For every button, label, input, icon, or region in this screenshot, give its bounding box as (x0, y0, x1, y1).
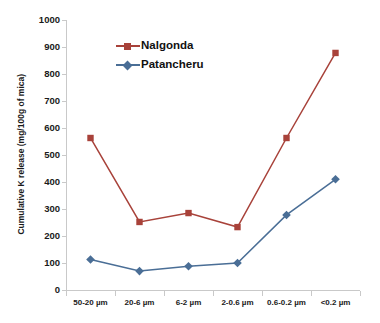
y-axis-tick-label-wrap: 800 (0, 69, 60, 79)
x-axis-tick-label: 50-20 µm (73, 299, 107, 307)
y-axis-tick-label-wrap: 700 (0, 96, 60, 106)
y-axis-tick-label: 400 (20, 177, 60, 187)
x-axis-tick (262, 291, 263, 296)
y-axis-tick-label: 800 (20, 69, 60, 79)
y-axis-tick-label-wrap: 100 (0, 258, 60, 268)
x-axis-tick (360, 291, 361, 296)
y-axis-tick-label: 700 (20, 96, 60, 106)
y-axis-tick-label: 600 (20, 123, 60, 133)
y-axis-tick-label: 300 (20, 204, 60, 214)
x-axis-tick (164, 291, 165, 296)
chart-legend: Nalgonda Patancheru (116, 36, 266, 74)
x-axis-tick (213, 291, 214, 296)
series-line-patancheru (91, 179, 336, 271)
y-axis-tick-label: 500 (20, 150, 60, 160)
y-axis-tick-label-wrap: 300 (0, 204, 60, 214)
data-point-nalgonda-2[interactable] (185, 210, 191, 216)
data-point-nalgonda-1[interactable] (136, 219, 142, 225)
data-point-nalgonda-5[interactable] (332, 50, 338, 56)
legend-item-nalgonda[interactable]: Nalgonda (116, 36, 266, 55)
legend-marker-diamond (123, 60, 133, 70)
y-axis-tick-label: 0 (20, 285, 60, 295)
y-axis-tick-label: 200 (20, 231, 60, 241)
x-axis-tick-label: 6-2 µm (176, 299, 202, 307)
y-axis-tick-label-wrap: 200 (0, 231, 60, 241)
y-axis-tick-label-wrap: 500 (0, 150, 60, 160)
data-point-nalgonda-0[interactable] (87, 135, 93, 141)
legend-label-patancheru: Patancheru (141, 59, 204, 71)
x-axis-tick (115, 291, 116, 296)
x-axis-tick (311, 291, 312, 296)
x-axis-tick-label: 2-0.6 µm (221, 299, 253, 307)
y-axis-tick-label-wrap: 600 (0, 123, 60, 133)
data-point-patancheru-2[interactable] (184, 262, 193, 271)
x-axis-tick-label: 20-6 µm (125, 299, 155, 307)
y-axis-tick-label: 1000 (20, 15, 60, 25)
data-point-patancheru-1[interactable] (135, 267, 144, 276)
y-axis-tick-label: 100 (20, 258, 60, 268)
y-axis-tick-label-wrap: 400 (0, 177, 60, 187)
series-line-nalgonda (91, 53, 336, 227)
legend-label-nalgonda: Nalgonda (141, 40, 193, 52)
x-axis-tick-label: 0.6-0.2 µm (267, 299, 306, 307)
y-axis-tick-label-wrap: 0 (0, 285, 60, 295)
x-axis-tick (66, 291, 67, 296)
y-axis-tick-label-wrap: 900 (0, 42, 60, 52)
legend-swatch-patancheru (116, 59, 140, 71)
y-axis-tick-label: 900 (20, 42, 60, 52)
legend-marker-square (124, 43, 131, 50)
data-point-nalgonda-3[interactable] (234, 224, 240, 230)
x-axis-tick-label: <0.2 µm (321, 299, 351, 307)
legend-item-patancheru[interactable]: Patancheru (116, 55, 266, 74)
y-axis-tick-label-wrap: 1000 (0, 15, 60, 25)
legend-swatch-nalgonda (116, 40, 140, 52)
cumulative-k-release-line-chart: Cumulative K release (mg/100g of mica) 0… (0, 0, 380, 323)
data-point-nalgonda-4[interactable] (283, 135, 289, 141)
data-point-patancheru-0[interactable] (86, 255, 95, 264)
